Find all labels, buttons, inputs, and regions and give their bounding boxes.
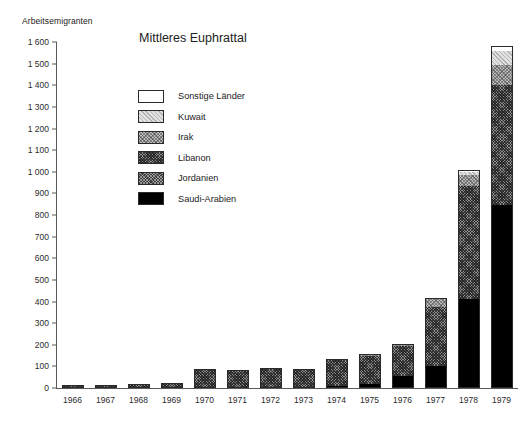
y-axis-tick-mark bbox=[52, 106, 57, 107]
y-axis-tick-mark bbox=[52, 42, 57, 43]
legend-item-saudi-arabien[interactable]: Saudi-Arabien bbox=[138, 189, 245, 210]
y-axis-tick-mark bbox=[52, 193, 57, 194]
bar-segment-libanon bbox=[326, 360, 348, 386]
x-axis-tick-label: 1966 bbox=[63, 395, 82, 405]
bar-segment-libanon bbox=[128, 384, 150, 388]
y-axis-tick-mark bbox=[52, 63, 57, 64]
y-axis-tick-mark bbox=[52, 323, 57, 324]
y-axis-tick-label: 1 600 bbox=[5, 37, 56, 47]
y-axis-tick-mark bbox=[52, 279, 57, 280]
bar-1977[interactable] bbox=[425, 298, 447, 388]
legend-item-irak[interactable]: Irak bbox=[138, 127, 245, 148]
y-axis-tick-label: 1 300 bbox=[5, 102, 56, 112]
bar-1979[interactable] bbox=[491, 46, 513, 388]
x-axis-tick-label: 1972 bbox=[261, 395, 280, 405]
x-axis-tick-label: 1971 bbox=[228, 395, 247, 405]
bar-segment-libanon bbox=[458, 186, 480, 300]
legend-swatch-icon bbox=[138, 192, 164, 205]
chart-legend: Sonstige LänderKuwaitIrakLibanonJordanie… bbox=[138, 86, 245, 209]
bar-segment-saudi-arabien bbox=[392, 376, 414, 388]
y-axis-tick-mark bbox=[52, 388, 57, 389]
bar-segment-libanon bbox=[95, 385, 117, 388]
bar-segment-libanon bbox=[62, 385, 84, 388]
x-axis-tick-label: 1968 bbox=[129, 395, 148, 405]
y-axis-title: Arbeitsemigranten bbox=[22, 16, 93, 26]
y-axis-tick-mark bbox=[52, 150, 57, 151]
bar-1968[interactable] bbox=[128, 384, 150, 388]
legend-item-sonstige-l-nder[interactable]: Sonstige Länder bbox=[138, 86, 245, 107]
x-axis-tick-label: 1977 bbox=[426, 395, 445, 405]
x-axis-tick-label: 1979 bbox=[492, 395, 511, 405]
x-axis-tick-label: 1974 bbox=[327, 395, 346, 405]
plot-area: 01002003004005006007008009001 0001 1001 … bbox=[56, 42, 518, 388]
y-axis-tick-label: 600 bbox=[5, 253, 56, 263]
bar-1966[interactable] bbox=[62, 385, 84, 388]
x-axis-tick-label: 1969 bbox=[162, 395, 181, 405]
legend-item-label: Saudi-Arabien bbox=[178, 194, 236, 204]
y-axis-tick-mark bbox=[52, 215, 57, 216]
legend-item-label: Libanon bbox=[178, 153, 211, 163]
bar-segment-libanon bbox=[425, 307, 447, 366]
legend-swatch-icon bbox=[138, 110, 164, 123]
bar-segment-libanon bbox=[227, 370, 249, 388]
bar-1971[interactable] bbox=[227, 370, 249, 388]
y-axis-tick-mark bbox=[52, 366, 57, 367]
bar-segment-libanon bbox=[392, 346, 414, 376]
y-axis-tick-label: 300 bbox=[5, 318, 56, 328]
y-axis-tick-label: 900 bbox=[5, 188, 56, 198]
legend-item-jordanien[interactable]: Jordanien bbox=[138, 168, 245, 189]
y-axis-tick-label: 1 100 bbox=[5, 145, 56, 155]
bar-segment-irak bbox=[491, 65, 513, 86]
bar-segment-irak bbox=[425, 299, 447, 307]
y-axis-tick-label: 500 bbox=[5, 275, 56, 285]
bar-segment-libanon bbox=[161, 383, 183, 388]
bar-1973[interactable] bbox=[293, 369, 315, 388]
y-axis-tick-label: 800 bbox=[5, 210, 56, 220]
bar-segment-saudi-arabien bbox=[425, 366, 447, 388]
bar-segment-saudi-arabien bbox=[359, 384, 381, 388]
legend-item-label: Sonstige Länder bbox=[178, 91, 245, 101]
y-axis-tick-label: 100 bbox=[5, 361, 56, 371]
bar-segment-saudi-arabien bbox=[491, 205, 513, 388]
legend-swatch-icon bbox=[138, 131, 164, 144]
legend-item-kuwait[interactable]: Kuwait bbox=[138, 107, 245, 128]
bar-segment-libanon bbox=[194, 369, 216, 388]
bar-1975[interactable] bbox=[359, 354, 381, 388]
chart-figure: Arbeitsemigranten Mittleres Euphrattal 0… bbox=[0, 0, 526, 428]
bar-1974[interactable] bbox=[326, 359, 348, 388]
bar-segment-libanon bbox=[260, 368, 282, 388]
x-axis-tick-label: 1973 bbox=[294, 395, 313, 405]
y-axis-tick-label: 700 bbox=[5, 232, 56, 242]
y-axis-tick-label: 1 000 bbox=[5, 167, 56, 177]
bar-1972[interactable] bbox=[260, 368, 282, 388]
legend-item-libanon[interactable]: Libanon bbox=[138, 148, 245, 169]
y-axis-tick-mark bbox=[52, 258, 57, 259]
legend-item-label: Irak bbox=[178, 132, 193, 142]
y-axis-tick-mark bbox=[52, 236, 57, 237]
bar-segment-libanon bbox=[359, 356, 381, 384]
y-axis-tick-mark bbox=[52, 301, 57, 302]
x-axis-tick-label: 1970 bbox=[195, 395, 214, 405]
y-axis-tick-label: 0 bbox=[5, 383, 56, 393]
bar-segment-libanon bbox=[491, 85, 513, 205]
y-axis-tick-label: 1 200 bbox=[5, 124, 56, 134]
legend-swatch-icon bbox=[138, 90, 164, 103]
bar-1967[interactable] bbox=[95, 385, 117, 388]
bar-1978[interactable] bbox=[458, 170, 480, 388]
y-axis-tick-label: 200 bbox=[5, 340, 56, 350]
legend-item-label: Kuwait bbox=[178, 112, 206, 122]
y-axis-tick-label: 1 500 bbox=[5, 59, 56, 69]
bar-segment-irak bbox=[458, 175, 480, 186]
bar-1976[interactable] bbox=[392, 344, 414, 388]
x-axis-tick-label: 1967 bbox=[96, 395, 115, 405]
x-axis-tick-label: 1978 bbox=[459, 395, 478, 405]
bar-segment-libanon bbox=[293, 369, 315, 388]
legend-swatch-icon bbox=[138, 172, 164, 185]
x-axis-tick-label: 1975 bbox=[360, 395, 379, 405]
legend-item-label: Jordanien bbox=[178, 173, 218, 183]
y-axis-tick-mark bbox=[52, 171, 57, 172]
bar-1970[interactable] bbox=[194, 369, 216, 388]
bar-1969[interactable] bbox=[161, 383, 183, 388]
y-axis-tick-label: 1 400 bbox=[5, 80, 56, 90]
bar-segment-kuwait bbox=[491, 51, 513, 65]
